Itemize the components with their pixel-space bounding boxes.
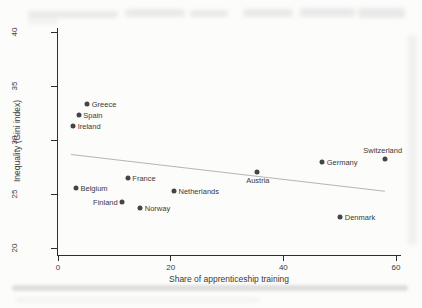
point-label-belgium: Belgium <box>81 183 108 192</box>
point-label-finland: Finland <box>93 197 118 206</box>
point-label-spain: Spain <box>83 111 102 120</box>
y-tick-label: 20 <box>10 244 19 253</box>
data-point-netherlands <box>172 188 177 193</box>
scan-artifact <box>12 285 408 291</box>
y-tick-label: 40 <box>10 28 19 37</box>
x-tick-label: 60 <box>392 263 401 272</box>
data-point-norway <box>138 206 143 211</box>
point-label-germany: Germany <box>327 157 358 166</box>
point-label-greece: Greece <box>92 100 117 109</box>
x-tick-mark <box>396 255 397 261</box>
point-label-ireland: Ireland <box>78 121 101 130</box>
data-point-greece <box>85 102 90 107</box>
y-tick-mark <box>51 140 57 141</box>
y-tick-mark <box>51 194 57 195</box>
point-label-norway: Norway <box>145 204 170 213</box>
scan-artifact <box>358 8 405 18</box>
y-tick-label: 25 <box>10 190 19 199</box>
point-label-austria: Austria <box>246 176 269 185</box>
point-label-france: France <box>132 173 155 182</box>
data-point-france <box>125 175 130 180</box>
x-axis-title: Share of apprenticeship training <box>169 274 289 284</box>
y-tick-label: 30 <box>10 136 19 145</box>
x-tick-mark <box>58 255 59 261</box>
x-tick-label: 40 <box>279 263 288 272</box>
point-label-switzerland: Switzerland <box>363 146 402 155</box>
y-tick-mark <box>51 32 57 33</box>
data-point-germany <box>320 159 325 164</box>
point-label-denmark: Denmark <box>345 212 375 221</box>
scan-artifact <box>300 8 355 17</box>
x-tick-mark <box>283 255 284 261</box>
scatter-plot-figure: Inequality (Gini index) Share of apprent… <box>0 0 422 308</box>
y-tick-label: 35 <box>10 82 19 91</box>
scan-artifact <box>408 35 417 245</box>
data-point-denmark <box>338 214 343 219</box>
data-point-austria <box>254 170 259 175</box>
data-point-switzerland <box>382 157 387 162</box>
scan-artifact <box>243 9 293 17</box>
y-axis <box>57 28 58 256</box>
y-tick-mark <box>51 248 57 249</box>
x-tick-label: 20 <box>166 263 175 272</box>
point-label-netherlands: Netherlands <box>179 186 219 195</box>
data-point-finland <box>120 199 125 204</box>
x-tick-label: 0 <box>56 263 60 272</box>
data-point-belgium <box>74 185 79 190</box>
x-axis <box>57 255 401 256</box>
data-point-ireland <box>71 123 76 128</box>
scan-artifact <box>125 9 185 17</box>
scan-artifact <box>15 298 260 302</box>
y-tick-mark <box>51 86 57 87</box>
scan-artifact <box>28 11 118 18</box>
x-tick-mark <box>170 255 171 261</box>
scan-artifact <box>28 19 58 24</box>
scan-artifact <box>190 10 228 17</box>
data-point-spain <box>76 113 81 118</box>
